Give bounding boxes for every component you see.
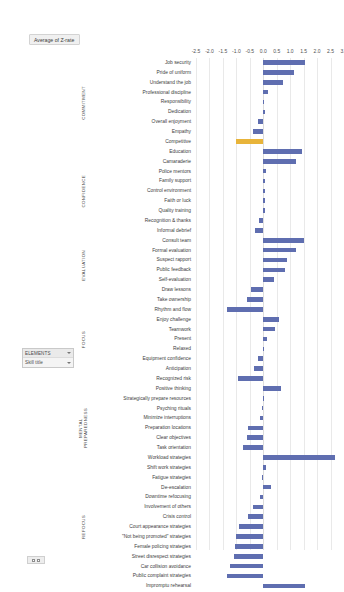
bar-row[interactable] xyxy=(196,354,344,364)
bar[interactable] xyxy=(263,248,295,253)
bar-row[interactable] xyxy=(196,315,344,325)
bar[interactable] xyxy=(263,238,303,243)
grid-view-icon[interactable] xyxy=(32,559,35,562)
bar[interactable] xyxy=(254,366,263,371)
bar[interactable] xyxy=(263,159,295,164)
bar[interactable] xyxy=(263,70,294,75)
bar[interactable] xyxy=(263,317,279,322)
bar[interactable] xyxy=(263,80,283,85)
bar[interactable] xyxy=(230,564,264,569)
bar-row[interactable] xyxy=(196,364,344,374)
bar-row[interactable] xyxy=(196,374,344,384)
bar-row[interactable] xyxy=(196,344,344,354)
bar[interactable] xyxy=(258,119,263,124)
bar[interactable] xyxy=(263,485,271,490)
bar[interactable] xyxy=(263,100,264,105)
bar[interactable] xyxy=(263,208,264,213)
bar[interactable] xyxy=(263,90,268,95)
bar[interactable] xyxy=(247,435,263,440)
bar-row[interactable] xyxy=(196,414,344,424)
bar-row[interactable] xyxy=(196,285,344,295)
bar-row[interactable] xyxy=(196,275,344,285)
bar[interactable] xyxy=(263,149,302,154)
bar[interactable] xyxy=(263,110,264,115)
bar-row[interactable] xyxy=(196,88,344,98)
bar[interactable] xyxy=(247,297,263,302)
bar[interactable] xyxy=(263,189,264,194)
bar[interactable] xyxy=(263,179,264,184)
bar-row[interactable] xyxy=(196,532,344,542)
bar-row[interactable] xyxy=(196,186,344,196)
bar[interactable] xyxy=(239,524,263,529)
bar-row[interactable] xyxy=(196,473,344,483)
bar[interactable] xyxy=(236,534,263,539)
bar-row[interactable] xyxy=(196,335,344,345)
bar[interactable] xyxy=(251,287,263,292)
bar[interactable] xyxy=(243,445,263,450)
bar-row[interactable] xyxy=(196,68,344,78)
bar[interactable] xyxy=(260,495,263,500)
view-toggle-toolbar[interactable] xyxy=(27,556,45,564)
bar-row[interactable] xyxy=(196,117,344,127)
bar[interactable] xyxy=(263,327,275,332)
bar[interactable] xyxy=(263,198,264,203)
bar-row[interactable] xyxy=(196,137,344,147)
bar[interactable] xyxy=(238,376,264,381)
bar-row[interactable] xyxy=(196,236,344,246)
bar[interactable] xyxy=(255,228,264,233)
bar-row[interactable] xyxy=(196,552,344,562)
bar[interactable] xyxy=(263,396,264,401)
bar-row[interactable] xyxy=(196,295,344,305)
bar[interactable] xyxy=(253,505,264,510)
bar-row[interactable] xyxy=(196,157,344,167)
bar-row[interactable] xyxy=(196,522,344,532)
bar-row[interactable] xyxy=(196,433,344,443)
bar[interactable] xyxy=(259,218,263,223)
bar[interactable] xyxy=(263,60,305,65)
bar[interactable] xyxy=(263,386,280,391)
bar-row[interactable] xyxy=(196,58,344,68)
bar-row[interactable] xyxy=(196,147,344,157)
bar-row[interactable] xyxy=(196,107,344,117)
list-view-icon[interactable] xyxy=(37,559,40,562)
bar[interactable] xyxy=(263,455,334,460)
bar-row[interactable] xyxy=(196,325,344,335)
value-field-button[interactable]: Average of Z-rate xyxy=(29,34,80,45)
bar-row[interactable] xyxy=(196,384,344,394)
bar[interactable] xyxy=(260,416,263,421)
bar-row[interactable] xyxy=(196,78,344,88)
bar-row[interactable] xyxy=(196,177,344,187)
bar[interactable] xyxy=(262,475,263,480)
bar-row[interactable] xyxy=(196,216,344,226)
bar[interactable] xyxy=(227,574,263,579)
bar[interactable] xyxy=(248,426,263,431)
bar-row[interactable] xyxy=(196,394,344,404)
bar-row[interactable] xyxy=(196,167,344,177)
bar-row[interactable] xyxy=(196,572,344,582)
bar[interactable] xyxy=(263,347,264,352)
bar[interactable] xyxy=(227,307,263,312)
bar-row[interactable] xyxy=(196,226,344,236)
bar-row[interactable] xyxy=(196,265,344,275)
chevron-down-icon[interactable] xyxy=(67,352,71,354)
bar[interactable] xyxy=(262,406,263,411)
bar-row[interactable] xyxy=(196,463,344,473)
bar[interactable] xyxy=(263,268,285,273)
field-list-panel[interactable]: ELEMENTSSkill title xyxy=(22,348,74,368)
bar-row[interactable] xyxy=(196,98,344,108)
bar-row[interactable] xyxy=(196,493,344,503)
bar-row[interactable] xyxy=(196,404,344,414)
bar-row[interactable] xyxy=(196,305,344,315)
bar[interactable] xyxy=(234,554,264,559)
bar-row[interactable] xyxy=(196,256,344,266)
bar-row[interactable] xyxy=(196,502,344,512)
bar-row[interactable] xyxy=(196,453,344,463)
chevron-down-icon[interactable] xyxy=(67,362,71,364)
bar[interactable] xyxy=(236,139,263,144)
bar-row[interactable] xyxy=(196,542,344,552)
bar[interactable] xyxy=(248,514,263,519)
bar-row[interactable] xyxy=(196,483,344,493)
bar-row[interactable] xyxy=(196,581,344,591)
bar[interactable] xyxy=(263,169,266,174)
field-panel-row[interactable]: ELEMENTS xyxy=(23,349,73,358)
